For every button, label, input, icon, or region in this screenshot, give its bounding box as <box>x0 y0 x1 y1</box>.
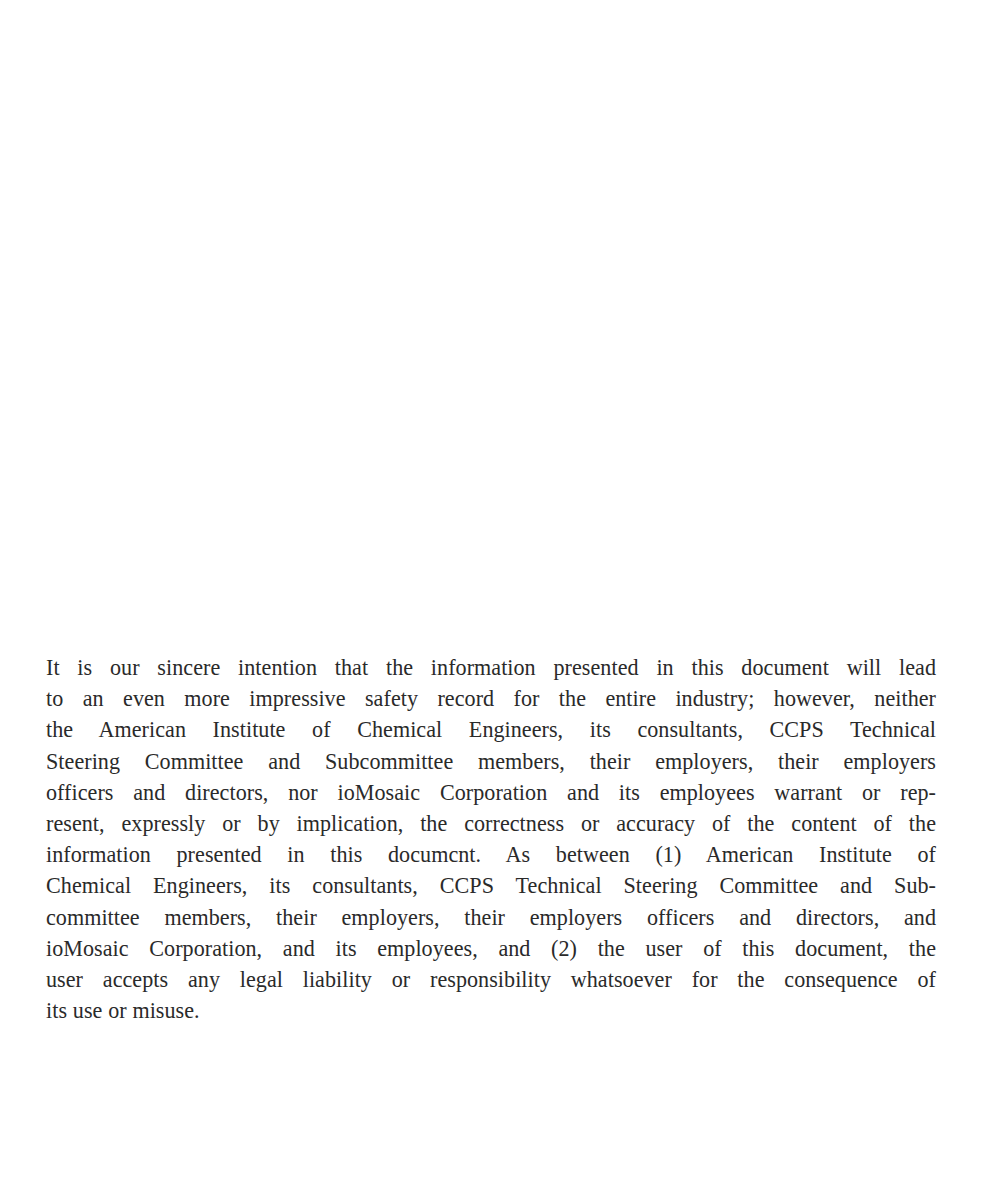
text-line: ioMosaic Corporation, and its employees,… <box>46 933 936 964</box>
text-line: information presented in this documcnt. … <box>46 839 936 870</box>
text-line: its use or misuse. <box>46 995 936 1026</box>
text-line: Chemical Engineers, its consultants, CCP… <box>46 870 936 901</box>
page-blank-area-bottom <box>0 1040 1000 1184</box>
text-line: It is our sincere intention that the inf… <box>46 652 936 683</box>
text-line: the American Institute of Chemical Engin… <box>46 714 936 745</box>
scanned-document-page: It is our sincere intention that the inf… <box>0 0 1000 1184</box>
text-line: officers and directors, nor ioMosaic Cor… <box>46 777 936 808</box>
text-line: to an even more impressive safety record… <box>46 683 936 714</box>
text-line: user accepts any legal liability or resp… <box>46 964 936 995</box>
text-line: Steering Committee and Subcommittee memb… <box>46 746 936 777</box>
disclaimer-text-block: It is our sincere intention that the inf… <box>46 652 936 1026</box>
page-blank-area-top <box>0 0 1000 655</box>
disclaimer-paragraph: It is our sincere intention that the inf… <box>46 652 936 1026</box>
text-line: committee members, their employers, thei… <box>46 902 936 933</box>
text-line: resent, expressly or by implication, the… <box>46 808 936 839</box>
